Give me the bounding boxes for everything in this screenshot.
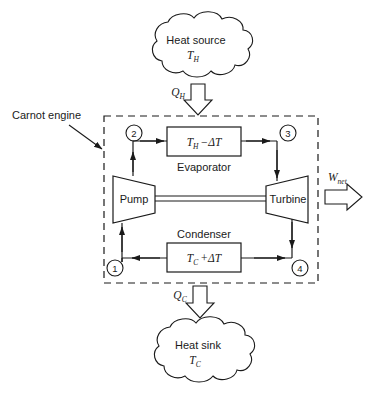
state-point-3-label: 3 (285, 128, 290, 139)
diagram-canvas: Heat source TH QH Carnot engine TH−ΔT Ev… (0, 0, 369, 393)
pump-label: Pump (120, 193, 149, 205)
heat-input-arrow-icon (184, 84, 212, 115)
evaporator-temperature: TH−ΔT (187, 136, 223, 151)
heat-input-subscript: H (178, 92, 185, 101)
work-output-subscript: net (338, 177, 348, 186)
flow-path-pump-to-evaporator (133, 141, 167, 176)
state-point-4-label: 4 (297, 263, 302, 274)
state-point-2: 2 (126, 125, 142, 141)
heat-sink-temp-subscript: C (196, 360, 202, 369)
heat-input-arrow-group: QH (171, 84, 212, 115)
flow-path-condenser-to-1 (122, 258, 167, 262)
heat-output-label: QC (173, 289, 187, 304)
state-point-3: 3 (280, 125, 296, 141)
state-point-4: 4 (292, 260, 308, 276)
heat-sink-temperature: TC (189, 354, 201, 369)
heat-output-arrow-group: QC (173, 286, 214, 318)
heat-input-label: QH (171, 86, 185, 101)
heat-source-temperature: TH (187, 49, 199, 64)
state-point-1: 1 (107, 260, 123, 276)
carnot-engine-callout: Carnot engine (12, 109, 102, 149)
condenser-temp-delta: +ΔT (200, 252, 223, 264)
evaporator-temp-subscript: H (192, 142, 199, 151)
turbine-label: Turbine (270, 193, 307, 205)
turbine-group: Turbine (266, 176, 308, 223)
evaporator-group: TH−ΔT Evaporator (167, 127, 241, 173)
work-output-arrow-icon (325, 184, 362, 210)
carnot-cycle-diagram: Heat source TH QH Carnot engine TH−ΔT Ev… (0, 0, 369, 393)
heat-source-cloud: Heat source TH (152, 12, 252, 77)
heat-output-arrow-icon (186, 286, 214, 318)
work-output-label: Wnet (328, 171, 348, 186)
flow-path-turbine-to-condenser (241, 219, 292, 258)
flow-path-evaporator-to-turbine (241, 141, 277, 181)
state-point-2-label: 2 (131, 128, 136, 139)
state-point-1-label: 1 (112, 263, 117, 274)
condenser-temp-subscript: C (193, 258, 199, 267)
condenser-caption: Condenser (177, 228, 231, 240)
heat-source-label: Heat source (166, 34, 225, 46)
shaft-connector (155, 196, 266, 201)
carnot-engine-pointer-arrow (69, 125, 102, 149)
heat-sink-cloud: Heat sink TC (154, 317, 254, 382)
heat-source-temp-subscript: H (192, 55, 199, 64)
condenser-temperature: TC+ΔT (187, 252, 223, 267)
evaporator-caption: Evaporator (177, 161, 231, 173)
heat-sink-label: Heat sink (175, 339, 221, 351)
evaporator-temp-delta: −ΔT (200, 136, 223, 148)
work-output-arrow-group: Wnet (325, 171, 362, 210)
carnot-engine-label: Carnot engine (12, 109, 81, 121)
condenser-group: TC+ΔT Condenser (167, 228, 241, 272)
pump-group: Pump (113, 176, 155, 223)
